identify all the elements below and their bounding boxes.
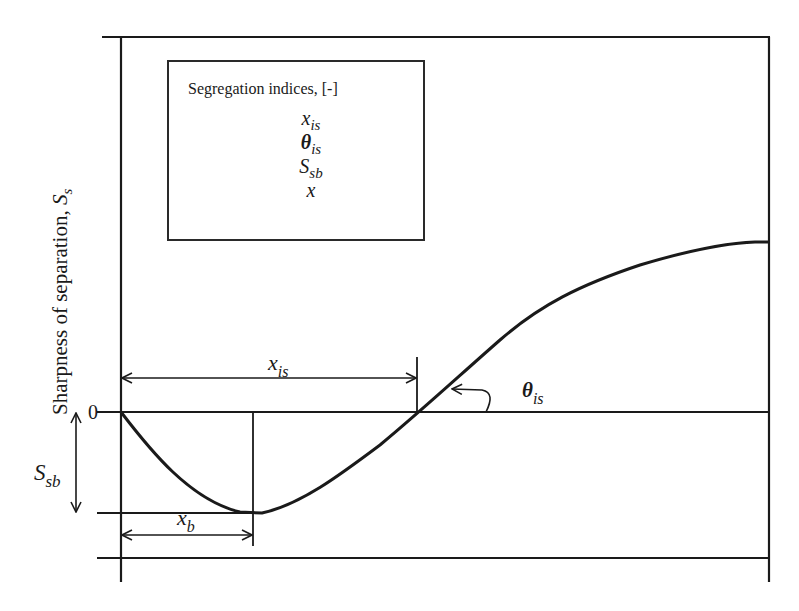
y-axis-label: Sharpness of separation, Ss	[48, 189, 76, 415]
legend-item-x-is: xis	[169, 106, 423, 130]
x-is-label: xis	[267, 350, 288, 380]
theta-angle-arc	[452, 389, 490, 412]
legend-box: Segregation indices, [-] xis θis Ssb x	[167, 60, 425, 241]
legend-item-s-sb: Ssb	[169, 154, 423, 178]
s-sb-label: Ssb	[34, 460, 61, 491]
theta-is-label: θis	[522, 378, 544, 407]
legend-item-theta-is: θis	[169, 130, 423, 154]
zero-tick-label: 0	[88, 401, 98, 423]
legend-item-x: x	[169, 178, 423, 202]
legend-title: Segregation indices, [-]	[188, 80, 338, 98]
legend-items: xis θis Ssb x	[169, 106, 423, 202]
x-b-label: xb	[176, 505, 195, 535]
